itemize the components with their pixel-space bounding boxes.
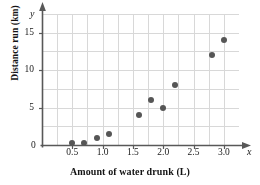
data-point [221,37,227,43]
data-point [172,82,178,88]
x-axis-label: Amount of water drunk (L) [0,166,260,177]
x-tick-label: 0.5 [60,147,84,157]
y-axis-variable-label: y [30,8,34,19]
data-points-group [42,14,239,145]
data-point [106,131,112,137]
data-point [209,52,215,58]
x-tick-label: 1.5 [121,147,145,157]
y-tick-label: 10 [18,64,34,74]
data-point [148,97,154,103]
x-tick-label: 2.5 [182,147,206,157]
scatter-plot-figure: Distance run (km) 0.51.01.52.02.53.0 510… [0,0,260,185]
x-axis-variable-label: x [247,146,251,157]
origin-label: 0 [31,140,36,150]
x-tick-label: 2.0 [151,147,175,157]
x-tick-label: 1.0 [91,147,115,157]
data-point [160,105,166,111]
y-tick-label: 5 [18,102,34,112]
plot-area [42,14,239,145]
data-point [81,140,87,146]
data-point [94,135,100,141]
x-tick-label: 3.0 [212,147,236,157]
data-point [136,112,142,118]
y-tick-label: 15 [18,27,34,37]
data-point [69,140,75,146]
